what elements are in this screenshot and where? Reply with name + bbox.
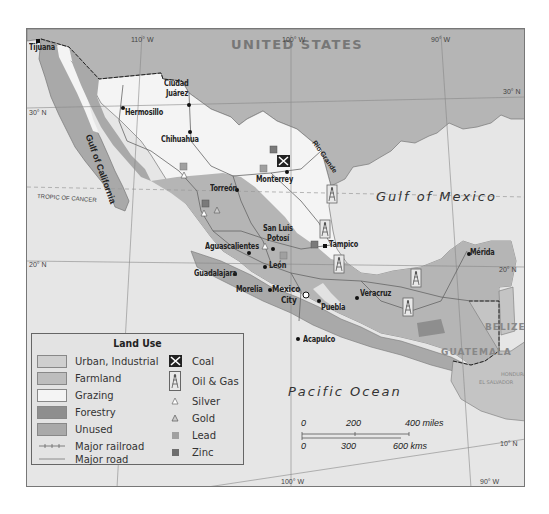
zinc-square-icon: [168, 445, 182, 459]
city-morelia: Morelia: [236, 285, 262, 294]
city-mexico-city-line1: Mexico: [272, 284, 300, 294]
legend-item-silver: Silver: [168, 394, 220, 408]
city-acapulco: Acapulco: [303, 335, 335, 344]
urban-swatch: [37, 355, 67, 368]
legend-item-unused: Unused: [37, 422, 113, 436]
road-line-icon: [37, 455, 67, 463]
legend-label: Urban, Industrial: [75, 356, 159, 367]
city-hermosillo: Hermosillo: [125, 108, 163, 117]
legend-label: Oil & Gas: [192, 376, 239, 387]
city-veracruz: Veracruz: [360, 289, 391, 298]
city-san-luis-potosi-line1: San Luis: [263, 224, 293, 233]
coal-marker: [277, 155, 290, 167]
gold-triangle-icon: [168, 411, 182, 425]
city-torreon: Torreón: [210, 184, 237, 193]
legend-item-oil-gas: Oil & Gas: [168, 371, 239, 391]
city-ciudad-juarez-line2: Juárez: [166, 89, 188, 98]
railroad-line-icon: [37, 442, 67, 450]
legend-label: Coal: [192, 356, 214, 367]
scale-miles-0: 0: [301, 418, 306, 428]
pacific-ocean-label: Pacific Ocean: [288, 384, 402, 399]
city-monterrey: Monterrey: [256, 175, 293, 184]
legend-item-grazing: Grazing: [37, 388, 114, 402]
legend-title: Land Use: [48, 337, 227, 350]
lead-square-icon: [168, 428, 182, 442]
lat-30-left-label: 30° N: [29, 109, 47, 116]
lon-100-top-label: 100° W: [282, 36, 305, 43]
lat-30-right-label: 30° N: [503, 88, 521, 95]
legend-label: Silver: [192, 396, 220, 407]
lat-20-right-label: 20° N: [499, 266, 517, 273]
legend-item-coal: Coal: [168, 354, 214, 368]
legend-item-forestry: Forestry: [37, 405, 116, 419]
city-merida: Mérida: [470, 248, 495, 257]
city-san-luis-potosi-line2: Potosí: [267, 234, 289, 243]
legend-label: Major railroad: [75, 441, 144, 452]
oil-derrick-icon: [168, 371, 182, 391]
city-ciudad-juarez-line1: Ciudad: [164, 79, 189, 88]
lon-110-label: 110° W: [131, 36, 154, 43]
scale-miles-400: 400 miles: [405, 418, 444, 428]
legend-label: Farmland: [75, 373, 121, 384]
city-puebla: Puebla: [321, 303, 345, 312]
honduras-label: HONDURAS: [501, 371, 525, 377]
legend-label: Unused: [75, 424, 113, 435]
scale-miles-200: 200: [346, 418, 361, 428]
legend-item-road: Major road: [37, 452, 128, 466]
unused-swatch: [37, 423, 67, 436]
belize-label: BELIZE: [485, 322, 525, 332]
el-salvador-label: EL SALVADOR: [479, 379, 513, 385]
coal-pickaxe-icon: [168, 354, 182, 368]
scale-kms-600: 600 kms: [393, 441, 427, 451]
scale-bar-lines: [301, 431, 421, 441]
city-aguascalientes: Aguascalientes: [205, 242, 259, 251]
legend-item-gold: Gold: [168, 411, 215, 425]
legend-label: Forestry: [75, 407, 116, 418]
legend-label: Major road: [75, 454, 128, 465]
land-use-legend: Land Use Urban, Industrial Farmland Graz…: [31, 333, 244, 465]
legend-label: Lead: [192, 430, 216, 441]
forestry-swatch: [37, 406, 67, 419]
city-chihuahua: Chihuahua: [161, 135, 199, 144]
city-leon: León: [269, 261, 286, 270]
legend-item-farmland: Farmland: [37, 371, 121, 385]
city-tampico: Tampico: [329, 240, 358, 249]
guatemala-label: GUATEMALA: [441, 347, 512, 357]
grazing-swatch: [37, 389, 67, 402]
legend-item-zinc: Zinc: [168, 445, 213, 459]
legend-item-lead: Lead: [168, 428, 216, 442]
lat-20-left-label: 20° N: [29, 261, 47, 268]
lat-10-label: 10° N: [500, 440, 518, 447]
gulf-of-mexico-label: Gulf of Mexico: [376, 189, 497, 204]
city-mexico-city-line2: City: [281, 295, 297, 305]
silver-triangle-icon: [168, 394, 182, 408]
legend-item-railroad: Major railroad: [37, 439, 144, 453]
legend-label: Zinc: [192, 447, 213, 458]
lon-100-bottom-label: 100° W: [281, 478, 304, 485]
legend-item-urban: Urban, Industrial: [37, 354, 159, 368]
scale-bar: 0 200 400 miles 0 300 600 kms: [301, 418, 461, 463]
city-guadalajara: Guadalajara: [194, 269, 237, 278]
scale-kms-0: 0: [301, 441, 306, 451]
scale-kms-300: 300: [341, 441, 356, 451]
legend-label: Gold: [192, 413, 215, 424]
lon-90-bottom-label: 90° W: [480, 478, 499, 485]
legend-label: Grazing: [75, 390, 114, 401]
lon-90-top-label: 90° W: [431, 36, 450, 43]
city-tijuana: Tijuana: [29, 43, 55, 52]
farmland-swatch: [37, 372, 67, 385]
